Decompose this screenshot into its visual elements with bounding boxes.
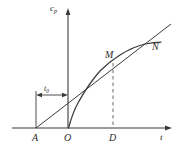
x-axis-label: t xyxy=(160,133,163,142)
response-curve xyxy=(69,42,162,128)
tangent-line xyxy=(36,24,171,128)
point-label-d: D xyxy=(109,133,116,143)
interval-label-t0: t0 xyxy=(44,85,49,94)
interval-label-subscript: 0 xyxy=(46,88,49,94)
point-label-m: M xyxy=(105,50,113,60)
point-label-a: A xyxy=(32,133,38,143)
point-label-n: N xyxy=(152,42,159,52)
y-axis-arrowhead xyxy=(66,8,71,15)
point-label-origin: O xyxy=(64,133,71,143)
y-axis-label: cp xyxy=(50,4,57,14)
x-axis-arrowhead xyxy=(165,126,172,131)
y-axis xyxy=(66,8,71,128)
y-axis-label-subscript: p xyxy=(54,8,57,14)
t0-measure-arrow xyxy=(36,93,68,97)
figure-container: cp t A O D M N t0 xyxy=(0,0,175,158)
diagram-canvas xyxy=(0,0,175,158)
